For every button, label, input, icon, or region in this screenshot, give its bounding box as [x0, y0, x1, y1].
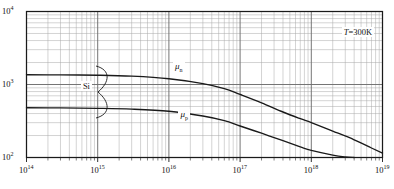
x-tick-label: 1018 [304, 165, 319, 175]
x-tick-label: 1015 [90, 165, 105, 175]
hole-mobility-label: μp [178, 109, 190, 119]
plot-svg [0, 0, 394, 189]
x-tick-label: 1016 [161, 165, 176, 175]
y-tick-label: 103 [2, 79, 14, 89]
mobility-vs-doping-figure: 104 103 102 1014 1015 1016 1017 1018 101… [0, 0, 394, 189]
x-tick-label: 1019 [375, 165, 390, 175]
y-tick-label: 102 [2, 152, 14, 162]
y-tick-label: 104 [2, 6, 14, 16]
axis-ticks [27, 158, 383, 163]
temperature-annotation: T=300K [342, 27, 374, 37]
material-label: Si [81, 81, 92, 91]
x-tick-label: 1014 [19, 165, 34, 175]
x-tick-label: 1017 [233, 165, 248, 175]
electron-mobility-label: μn [173, 61, 185, 71]
